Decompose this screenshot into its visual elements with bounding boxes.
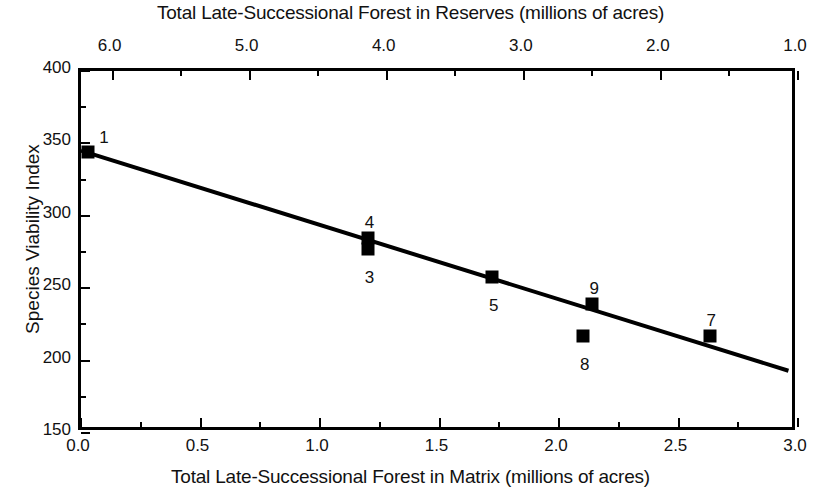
tick-label-bottom-axis: 3.0 — [783, 436, 807, 456]
y-axis-title: Species Viability Index — [22, 109, 44, 369]
tick-bottom-axis-minor — [379, 422, 381, 427]
tick-y-axis — [81, 70, 90, 72]
tick-label-y-axis: 200 — [43, 348, 71, 368]
tick-top-axis-minor — [317, 71, 319, 76]
data-point-label: 3 — [365, 268, 374, 288]
data-point-label: 4 — [365, 213, 374, 233]
data-point-marker — [586, 298, 599, 311]
tick-label-top-axis: 2.0 — [646, 36, 670, 56]
tick-label-top-axis: 5.0 — [235, 36, 259, 56]
tick-top-axis-minor — [180, 71, 182, 76]
top-axis-title: Total Late-Successional Forest in Reserv… — [0, 2, 821, 24]
data-point-label: 1 — [99, 128, 108, 148]
tick-label-bottom-axis: 1.5 — [425, 436, 449, 456]
tick-top-axis — [112, 71, 114, 80]
tick-bottom-axis-minor — [737, 422, 739, 427]
tick-label-bottom-axis: 1.0 — [305, 436, 329, 456]
tick-y-axis-minor — [81, 251, 86, 253]
data-point-marker — [361, 243, 374, 256]
bottom-axis-title: Total Late-Successional Forest in Matrix… — [0, 466, 821, 488]
tick-y-axis-minor — [81, 323, 86, 325]
tick-label-y-axis: 250 — [43, 275, 71, 295]
data-point-label: 7 — [707, 311, 716, 331]
tick-label-bottom-axis: 0.5 — [186, 436, 210, 456]
tick-top-axis — [386, 71, 388, 80]
tick-bottom-axis-minor — [498, 422, 500, 427]
data-point-label: 8 — [580, 355, 589, 375]
chart-figure: Total Late-Successional Forest in Reserv… — [0, 0, 821, 501]
tick-bottom-axis-minor — [140, 422, 142, 427]
tick-bottom-axis — [797, 418, 799, 427]
tick-bottom-axis — [439, 418, 441, 427]
tick-top-axis-minor — [454, 71, 456, 76]
data-point-label: 5 — [489, 296, 498, 316]
tick-bottom-axis — [319, 418, 321, 427]
tick-bottom-axis-minor — [259, 422, 261, 427]
tick-label-y-axis: 400 — [43, 58, 71, 78]
plot-area — [78, 68, 795, 430]
tick-label-y-axis: 300 — [43, 203, 71, 223]
tick-label-y-axis: 350 — [43, 130, 71, 150]
tick-y-axis — [81, 215, 90, 217]
tick-y-axis — [81, 432, 90, 434]
tick-top-axis — [797, 71, 799, 80]
tick-y-axis — [81, 287, 90, 289]
data-point-marker — [703, 329, 716, 342]
tick-label-bottom-axis: 2.0 — [544, 436, 568, 456]
tick-top-axis — [249, 71, 251, 80]
tick-label-bottom-axis: 2.5 — [664, 436, 688, 456]
tick-bottom-axis — [80, 418, 82, 427]
tick-label-y-axis: 150 — [43, 420, 71, 440]
tick-top-axis-minor — [591, 71, 593, 76]
tick-top-axis-minor — [728, 71, 730, 76]
tick-top-axis — [523, 71, 525, 80]
tick-y-axis-minor — [81, 106, 86, 108]
tick-bottom-axis-minor — [618, 422, 620, 427]
tick-label-top-axis: 4.0 — [372, 36, 396, 56]
tick-y-axis — [81, 142, 90, 144]
tick-label-top-axis: 3.0 — [509, 36, 533, 56]
tick-bottom-axis — [678, 418, 680, 427]
tick-label-top-axis: 6.0 — [98, 36, 122, 56]
data-point-marker — [576, 329, 589, 342]
regression-line — [81, 71, 798, 433]
tick-y-axis-minor — [81, 179, 86, 181]
tick-label-top-axis: 1.0 — [783, 36, 807, 56]
tick-bottom-axis — [200, 418, 202, 427]
tick-y-axis — [81, 360, 90, 362]
data-point-label: 9 — [589, 279, 598, 299]
tick-y-axis-minor — [81, 396, 86, 398]
tick-top-axis — [660, 71, 662, 80]
data-point-marker — [486, 270, 499, 283]
data-point-marker — [82, 146, 95, 159]
tick-bottom-axis — [558, 418, 560, 427]
